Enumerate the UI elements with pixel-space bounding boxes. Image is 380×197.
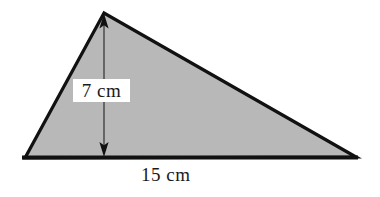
height-measurement-label: 7 cm (73, 79, 130, 102)
triangle-figure: 7 cm 15 cm (0, 0, 380, 197)
base-measurement-label: 15 cm (141, 165, 190, 184)
